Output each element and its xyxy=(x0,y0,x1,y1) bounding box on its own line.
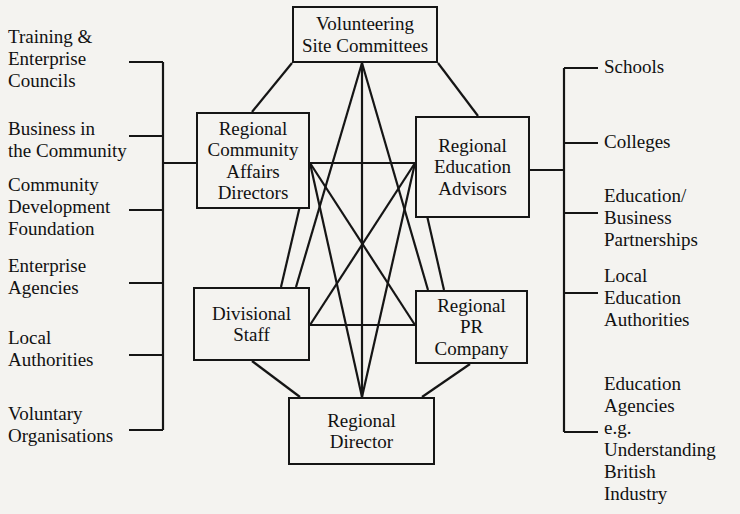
label-business-in-the-community: Business inthe Community xyxy=(8,118,127,162)
node-volunteering-site-committees[interactable]: VolunteeringSite Committees xyxy=(292,6,438,63)
node-divisional-staff-label: DivisionalStaff xyxy=(208,303,295,346)
label-schools: Schools xyxy=(604,56,664,78)
label-voluntary-organisations: VoluntaryOrganisations xyxy=(8,403,113,447)
label-education-business-partnerships: Education/BusinessPartnerships xyxy=(604,185,698,251)
organisation-chart: VolunteeringSite Committees RegionalComm… xyxy=(0,0,740,514)
label-colleges: Colleges xyxy=(604,131,671,153)
link-director-rcad xyxy=(310,163,362,397)
node-regional-director[interactable]: RegionalDirector xyxy=(288,397,435,465)
node-regional-pr-company[interactable]: RegionalPR Company xyxy=(415,290,528,364)
node-regional-education-advisors[interactable]: RegionalEducationAdvisors xyxy=(415,116,530,218)
link-director-rea xyxy=(362,163,415,397)
link-pr-director xyxy=(422,364,470,397)
link-divisional-director xyxy=(252,361,300,397)
node-volunteering-site-committees-label: VolunteeringSite Committees xyxy=(298,13,432,56)
label-education-agencies: EducationAgenciese.g.UnderstandingBritis… xyxy=(604,373,716,505)
node-regional-education-advisors-label: RegionalEducationAdvisors xyxy=(430,135,515,199)
link-volunteering-rea xyxy=(438,63,478,116)
link-volunteering-rcad xyxy=(252,63,292,112)
node-regional-community-affairs-directors[interactable]: RegionalCommunityAffairsDirectors xyxy=(196,112,310,209)
node-divisional-staff[interactable]: DivisionalStaff xyxy=(193,287,310,361)
label-local-authorities: LocalAuthorities xyxy=(8,327,94,371)
label-enterprise-agencies: EnterpriseAgencies xyxy=(8,255,86,299)
node-regional-community-affairs-directors-label: RegionalCommunityAffairsDirectors xyxy=(204,118,303,203)
label-local-education-authorities: LocalEducationAuthorities xyxy=(604,265,690,331)
label-community-development-foundation: CommunityDevelopmentFoundation xyxy=(8,174,110,240)
label-training-enterprise-councils: Training &EnterpriseCouncils xyxy=(8,26,92,92)
node-regional-director-label: RegionalDirector xyxy=(323,410,400,453)
node-regional-pr-company-label: RegionalPR Company xyxy=(417,295,526,359)
